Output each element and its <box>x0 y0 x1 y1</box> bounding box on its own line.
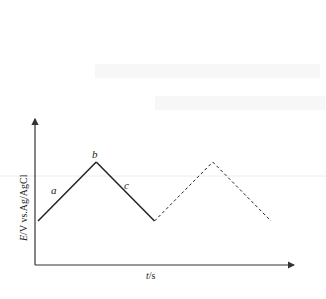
y-axis-label: E/V vs.Ag/AgCl <box>18 174 29 242</box>
y-axis-unit: /V vs.Ag/AgCl <box>18 174 29 235</box>
solid-sweep-segment-2 <box>96 162 154 221</box>
dashed-sweep-segment-2 <box>213 162 271 221</box>
dashed-sweep-segment-1 <box>155 162 213 221</box>
x-axis-label: t/s <box>146 270 156 281</box>
cyclic-voltammetry-waveform-diagram: a b c E/V vs.Ag/AgCl t/s <box>0 0 326 299</box>
segment-label-a: a <box>51 184 57 196</box>
segment-label-c: c <box>124 179 129 191</box>
waveform-group <box>38 162 271 221</box>
solid-sweep-segment-1 <box>38 162 96 221</box>
diagram-canvas: a b c E/V vs.Ag/AgCl t/s <box>0 0 326 299</box>
y-axis-variable: E <box>18 235 29 242</box>
x-axis-unit: /s <box>149 270 156 281</box>
segment-label-b: b <box>92 148 98 160</box>
